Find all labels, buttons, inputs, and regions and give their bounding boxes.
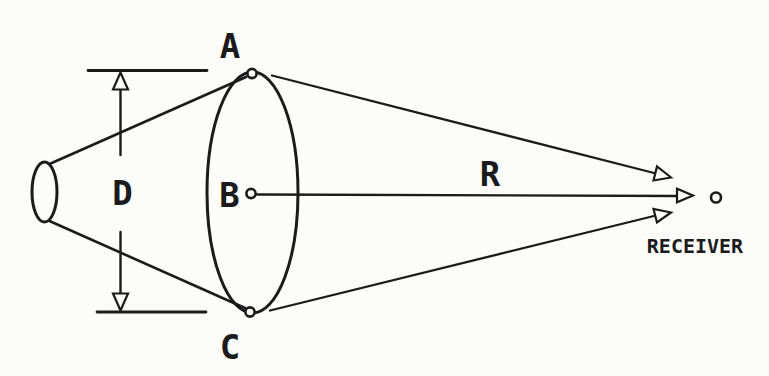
receiver-point-marker bbox=[711, 193, 721, 203]
ray-c-arrowhead-icon bbox=[654, 209, 672, 223]
ray-a-arrowhead-icon bbox=[654, 167, 672, 181]
dimension-arrow-up-icon bbox=[113, 73, 128, 90]
dimension-arrow-down-icon bbox=[113, 294, 128, 311]
point-b-label: B bbox=[219, 175, 239, 215]
point-c-label: C bbox=[220, 327, 240, 367]
ray-from-b bbox=[257, 195, 678, 197]
point-b-marker bbox=[246, 189, 255, 198]
ray-b-arrowhead-icon bbox=[677, 189, 693, 203]
point-c-marker bbox=[245, 307, 254, 316]
range-label: R bbox=[480, 154, 501, 194]
point-a-marker bbox=[247, 69, 256, 78]
diameter-label: D bbox=[112, 173, 132, 213]
ray-from-c bbox=[270, 216, 656, 311]
receiver-label: RECEIVER bbox=[647, 234, 744, 258]
ray-from-a bbox=[272, 76, 656, 174]
diagram-canvas: A B C D R RECEIVER bbox=[0, 0, 769, 376]
point-a-label: A bbox=[220, 26, 240, 66]
antenna-beam-geometry-diagram: A B C D R RECEIVER bbox=[0, 0, 769, 376]
feed-horn-ellipse bbox=[32, 162, 57, 222]
